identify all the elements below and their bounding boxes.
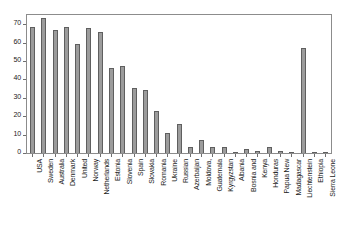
y-axis-tick-label: 40 (14, 74, 21, 81)
x-axis-tick: Kyrgyzstan (219, 154, 230, 226)
y-axis: 010203040506070 (0, 14, 26, 154)
bar-slot (286, 15, 297, 153)
bar (289, 152, 294, 153)
x-axis-tick-mark (212, 154, 213, 157)
bar-slot (128, 15, 139, 153)
bar (98, 32, 103, 153)
bar-slot (275, 15, 286, 153)
bar (143, 90, 148, 153)
x-axis-tick: Romania (151, 154, 162, 226)
x-axis-tick: Madagascar (286, 154, 297, 226)
y-axis-tick-label: 0 (17, 148, 21, 155)
x-axis-tick: Bosnia and (241, 154, 252, 226)
bar-chart-figure: 010203040506070 USASwedenAustraliaDenmar… (0, 0, 340, 226)
x-axis: USASwedenAustraliaDenmarkUnitedNorwayNet… (27, 154, 331, 226)
bar-slot (230, 15, 241, 153)
x-axis-tick-mark (111, 154, 112, 157)
x-axis-tick: Spain (128, 154, 139, 226)
x-axis-tick: Kenya (252, 154, 263, 226)
bar-slot (320, 15, 331, 153)
bar-slot (309, 15, 320, 153)
x-axis-tick: Papua New (275, 154, 286, 226)
x-axis-tick: Sweden (38, 154, 49, 226)
x-axis-tick-mark (269, 154, 270, 157)
x-axis-tick-mark (88, 154, 89, 157)
x-axis-tick-mark (134, 154, 135, 157)
x-axis-tick: Slovenia (117, 154, 128, 226)
bar (109, 68, 114, 153)
y-axis-tick-label: 30 (14, 93, 21, 100)
bar-slot (297, 15, 308, 153)
y-axis-tick-label: 50 (14, 56, 21, 63)
x-axis-tick: Slovakia (140, 154, 151, 226)
x-axis-tick: Ukraine (162, 154, 173, 226)
x-axis-tick-mark (280, 154, 281, 157)
bar-slot (83, 15, 94, 153)
bar (53, 30, 58, 153)
x-axis-tick: Moldova, (196, 154, 207, 226)
bar (188, 147, 193, 153)
x-axis-tick-label: Sierra Leone (329, 159, 336, 197)
bar-slot (151, 15, 162, 153)
bar (165, 133, 170, 153)
bar (210, 147, 215, 153)
x-axis-tick: Australia (50, 154, 61, 226)
x-axis-tick: Estonia (106, 154, 117, 226)
x-axis-tick-mark (190, 154, 191, 157)
x-axis-tick: Azerbaijan (185, 154, 196, 226)
x-axis-tick-mark (246, 154, 247, 157)
bar-slot (207, 15, 218, 153)
bar (64, 27, 69, 153)
bar (30, 27, 35, 153)
x-axis-tick-mark (77, 154, 78, 157)
bar-slot (173, 15, 184, 153)
bar-slot (241, 15, 252, 153)
bar (278, 151, 283, 153)
bar-slot (61, 15, 72, 153)
bar (267, 147, 272, 153)
bar (120, 66, 125, 153)
bar-slot (196, 15, 207, 153)
x-axis-tick-mark (314, 154, 315, 157)
x-axis-tick: Ethiopia (309, 154, 320, 226)
bar (86, 28, 91, 153)
x-axis-tick: United (72, 154, 83, 226)
x-axis-tick-mark (145, 154, 146, 157)
bar-slot (27, 15, 38, 153)
bar (255, 151, 260, 153)
x-axis-tick-mark (179, 154, 180, 157)
bar (132, 88, 137, 153)
bar-slot (185, 15, 196, 153)
x-axis-tick-mark (224, 154, 225, 157)
x-axis-tick: Albania (230, 154, 241, 226)
x-axis-tick-mark (201, 154, 202, 157)
x-axis-tick-mark (257, 154, 258, 157)
x-axis-tick: Russian (173, 154, 184, 226)
x-axis-tick-mark (156, 154, 157, 157)
bar-slot (50, 15, 61, 153)
bar (301, 48, 306, 153)
bar-slot (219, 15, 230, 153)
bar-slot (106, 15, 117, 153)
y-axis-tick-label: 60 (14, 38, 21, 45)
bar-slot (117, 15, 128, 153)
bar-series (27, 15, 331, 153)
x-axis-tick: Honduras (264, 154, 275, 226)
x-axis-tick-mark (303, 154, 304, 157)
bar (41, 18, 46, 153)
bar (244, 149, 249, 153)
x-axis-tick: Guatemala (207, 154, 218, 226)
bar-slot (264, 15, 275, 153)
x-axis-tick: Denmark (61, 154, 72, 226)
y-axis-tick-label: 20 (14, 111, 21, 118)
x-axis-tick-mark (122, 154, 123, 157)
bar (75, 44, 80, 153)
x-axis-tick-mark (66, 154, 67, 157)
x-axis-tick-mark (32, 154, 33, 157)
x-axis-tick-mark (291, 154, 292, 157)
x-axis-tick: Netherlands (95, 154, 106, 226)
bar (312, 152, 317, 153)
y-axis-tick-label: 10 (14, 130, 21, 137)
bar (233, 152, 238, 153)
bar-slot (95, 15, 106, 153)
